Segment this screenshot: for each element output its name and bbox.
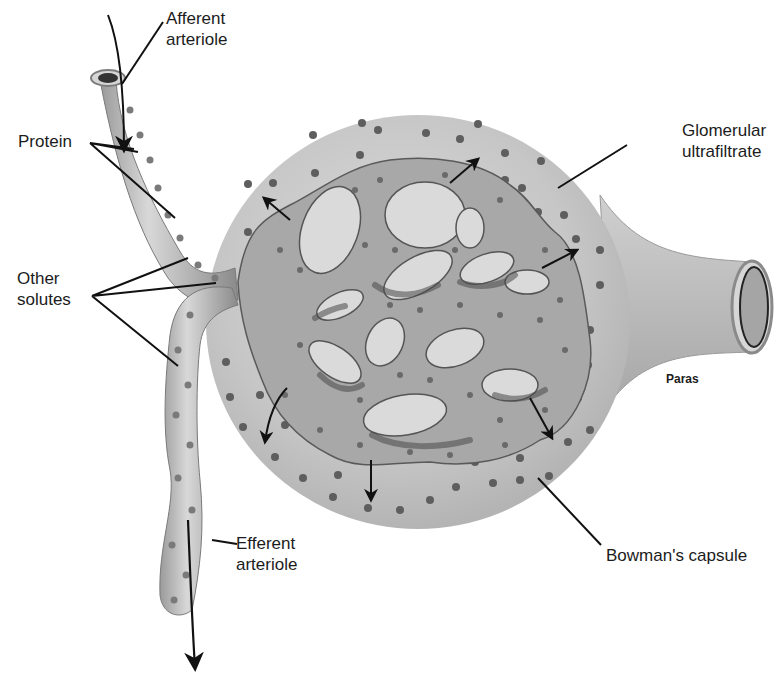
leader-bowmans (538, 478, 601, 545)
label-other-solutes-line2: solutes (17, 289, 71, 310)
leader-glomerular (558, 145, 627, 188)
label-efferent-line1: Efferent (236, 533, 297, 554)
glomerulus-diagram (0, 0, 783, 685)
leader-afferent (122, 22, 163, 84)
label-paras: Paras (666, 372, 699, 386)
label-afferent-line2: arteriole (166, 29, 227, 50)
leader-efferent (212, 540, 237, 544)
label-glomerular-ultrafiltrate: Glomerular ultrafiltrate (682, 120, 766, 162)
label-efferent-line2: arteriole (236, 554, 297, 575)
label-bowmans-capsule: Bowman's capsule (606, 545, 747, 566)
label-glomerular-line2: ultrafiltrate (682, 141, 766, 162)
label-other-solutes: Other solutes (17, 268, 71, 310)
label-afferent-line1: Afferent (166, 8, 227, 29)
label-efferent-arteriole: Efferent arteriole (236, 533, 297, 575)
label-protein: Protein (18, 131, 72, 152)
label-afferent-arteriole: Afferent arteriole (166, 8, 227, 50)
label-other-solutes-line1: Other (17, 268, 71, 289)
label-glomerular-line1: Glomerular (682, 120, 766, 141)
